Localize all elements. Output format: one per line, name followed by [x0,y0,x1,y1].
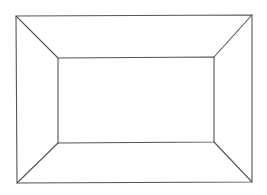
diagonal-bottom-left [17,143,58,183]
diagonal-top-right [214,15,252,57]
inner-rectangle [58,57,214,143]
perspective-box-diagram [0,0,267,195]
diagonal-top-left [16,16,58,58]
diagonal-bottom-right [214,142,252,182]
outer-rectangle [16,15,252,183]
